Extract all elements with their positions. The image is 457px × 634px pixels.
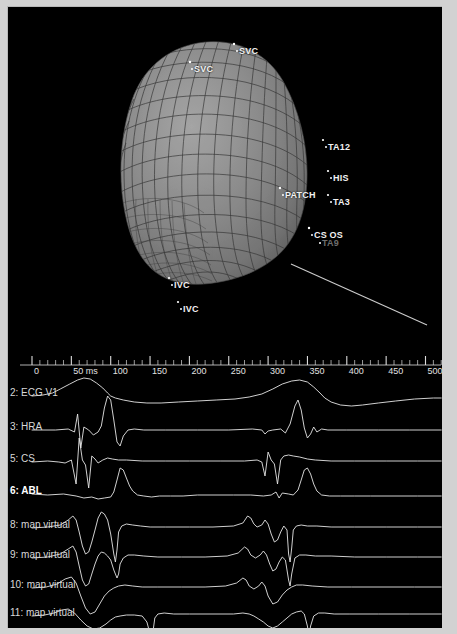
electrogram-svg (8, 348, 442, 628)
signal-trace-ch10[interactable] (32, 577, 441, 614)
signal-traces (32, 378, 441, 628)
site-marker-ivc-1 (168, 277, 170, 279)
time-axis-ticks (20, 356, 441, 365)
signal-trace-ch11[interactable] (32, 609, 441, 628)
signal-trace-ch2[interactable] (32, 378, 441, 406)
site-marker-patch (279, 187, 281, 189)
signal-trace-ch6[interactable] (32, 468, 441, 499)
site-marker-ta12 (322, 139, 324, 141)
three-d-map-viewport[interactable]: SVCSVCTA12HISPATCHTA3CS OSTA9IVCIVC (8, 7, 442, 348)
signal-trace-ch5[interactable] (32, 438, 441, 488)
site-marker-ta3 (327, 194, 329, 196)
site-marker-svc-2 (189, 61, 191, 63)
map-canvas: SVCSVCTA12HISPATCHTA3CS OSTA9IVCIVC 050 … (7, 6, 442, 628)
catheter-shaft[interactable] (291, 264, 427, 325)
electrogram-viewport[interactable]: 050 ms100150200250300350400450500 2: ECG… (8, 348, 442, 628)
site-marker-his (327, 170, 329, 172)
signal-trace-ch8[interactable] (32, 512, 441, 562)
site-marker-cs-os (308, 227, 310, 229)
atrium-mesh-svg (8, 7, 442, 348)
site-marker-svc-1 (233, 43, 235, 45)
signal-trace-ch3[interactable] (32, 396, 441, 448)
application-window: SVCSVCTA12HISPATCHTA3CS OSTA9IVCIVC 050 … (0, 0, 457, 634)
site-marker-ivc-2 (177, 301, 179, 303)
signal-trace-ch9[interactable] (32, 546, 441, 586)
